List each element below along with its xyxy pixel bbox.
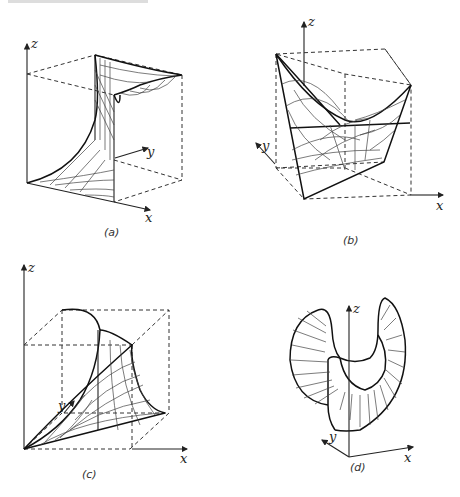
- caption-d: (d): [350, 461, 366, 474]
- surface-edge-a: [114, 95, 120, 103]
- y-label-a: y: [146, 144, 155, 159]
- inner-rim-d: [340, 335, 386, 390]
- cube-edges-c: [24, 310, 169, 449]
- lower-edge-d: [328, 405, 335, 430]
- shell-outline-d: [290, 298, 405, 431]
- surface-curve-c: [24, 309, 100, 449]
- caption-c: (c): [82, 468, 97, 481]
- panel-a: z x y (a): [27, 36, 182, 239]
- x-label-b: x: [436, 198, 444, 213]
- shell-fold-d: [328, 357, 340, 405]
- x-label-d: x: [404, 450, 412, 465]
- base-edge-a: [27, 183, 114, 202]
- panel-d: z x y (d): [290, 298, 413, 474]
- surface-curve-top-a: [95, 55, 182, 95]
- y-axis-a: [115, 148, 148, 158]
- y-label-b: y: [261, 138, 270, 153]
- surface-grid-a: [40, 58, 175, 197]
- x-label-c: x: [180, 451, 188, 466]
- saddle-midline-b: [290, 123, 410, 128]
- z-label-d: z: [352, 301, 360, 316]
- z-label-a: z: [30, 36, 38, 51]
- z-label-c: z: [27, 260, 35, 275]
- panel-b: z y x (b): [256, 14, 444, 247]
- caption-a: (a): [104, 226, 119, 239]
- saddle-ridge-b: [276, 54, 340, 125]
- ruling-lines-d: [291, 305, 405, 427]
- y-label-d: y: [328, 429, 337, 444]
- figure-canvas: z x y (a) z y: [0, 0, 460, 497]
- z-label-b: z: [307, 14, 315, 29]
- surface-outline-c: [24, 330, 165, 449]
- x-label-a: x: [145, 210, 153, 225]
- caption-b: (b): [343, 234, 359, 247]
- x-axis-a: [114, 202, 150, 210]
- panel-c: z x y (c): [24, 260, 188, 481]
